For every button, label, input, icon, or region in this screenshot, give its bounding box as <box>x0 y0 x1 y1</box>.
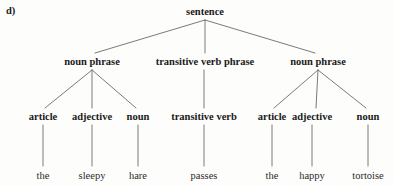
branch-left-np-to-noun <box>92 70 136 108</box>
word-happy: happy <box>299 171 325 182</box>
node-noun-right: noun <box>357 112 380 123</box>
word-passes: passes <box>191 171 218 182</box>
node-article-right: article <box>258 112 287 123</box>
syntax-tree-diagram: d) sentence <box>0 0 394 186</box>
node-noun-left: noun <box>127 112 150 123</box>
node-article-left: article <box>29 112 58 123</box>
branch-root-to-left-np <box>95 20 205 53</box>
word-the-1: the <box>37 171 50 182</box>
branch-right-np-to-noun <box>318 70 366 108</box>
node-transitive-verb: transitive verb <box>171 112 237 123</box>
node-sentence: sentence <box>186 7 224 18</box>
word-tortoise: tortoise <box>352 171 384 182</box>
node-adjective-right: adjective <box>292 112 332 123</box>
branch-right-np-to-adjective <box>316 70 318 108</box>
node-transitive-verb-phrase: transitive verb phrase <box>156 57 255 68</box>
word-sleepy: sleepy <box>79 171 106 182</box>
node-noun-phrase-left: noun phrase <box>64 57 120 68</box>
node-adjective-left: adjective <box>72 112 112 123</box>
word-the-2: the <box>266 171 279 182</box>
branch-left-np-to-article <box>45 70 92 108</box>
branch-right-np-to-article <box>274 70 318 108</box>
node-noun-phrase-right: noun phrase <box>290 57 346 68</box>
word-hare: hare <box>129 171 147 182</box>
branch-root-to-right-np <box>205 20 315 53</box>
tree-branch-lines <box>0 0 394 186</box>
